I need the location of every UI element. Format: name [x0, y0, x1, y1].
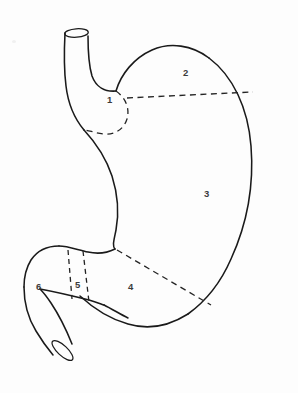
pylorus-left-boundary-line: [68, 250, 72, 299]
region-label-5: 5: [75, 280, 80, 290]
region-label-2: 2: [183, 68, 188, 78]
body-antrum-boundary-line: [117, 250, 211, 305]
duodenum-superior-contour: [24, 246, 59, 287]
pylorus-right-boundary-line: [83, 251, 89, 302]
region-label-6: 6: [36, 282, 41, 292]
greater-curvature: [188, 58, 252, 314]
cardia-boundary-arc: [84, 91, 128, 134]
duodenum-inner-wall: [40, 289, 72, 344]
stomach-diagram: 1 2 3 4 5 6: [0, 0, 298, 393]
esophagus-right-wall: [88, 36, 116, 91]
duodenum-left-wall: [24, 287, 53, 355]
fundus-body-boundary-line: [127, 92, 253, 98]
esophagus-left-wall: [64, 33, 84, 130]
stomach-figure-svg: [0, 0, 298, 393]
region-label-3: 3: [204, 189, 209, 199]
region-label-1: 1: [107, 95, 112, 105]
antrum-inferior-contour: [80, 296, 188, 327]
lesser-curvature: [84, 130, 118, 249]
fundus-dome-contour: [116, 46, 209, 91]
antrum-superior-contour: [59, 246, 115, 253]
esophagus-lumen-ellipse: [64, 28, 88, 38]
region-label-4: 4: [128, 282, 133, 292]
